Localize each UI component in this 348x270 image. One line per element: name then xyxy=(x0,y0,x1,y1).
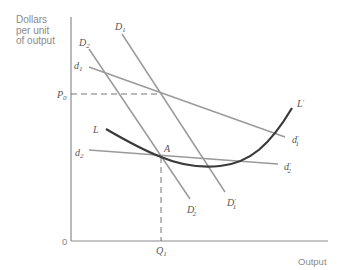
label-D2: D2 xyxy=(78,37,90,50)
label-d2prime: d′2 xyxy=(284,161,292,175)
label-D1: D1 xyxy=(114,21,126,34)
label-Lprime: L′ xyxy=(296,98,305,109)
demand-line-d1 xyxy=(89,67,285,137)
label-origin: 0 xyxy=(62,236,67,247)
label-d2: d2 xyxy=(75,147,84,160)
label-L: L xyxy=(92,124,99,135)
x-axis-label: Output xyxy=(298,256,327,267)
economics-diagram: D1 D2 d1 d2 L L′ d′1 d′2 D′2 D′1 A P0 Q1… xyxy=(0,0,348,270)
label-P0: P0 xyxy=(56,89,67,102)
demand-line-D1 xyxy=(122,34,225,192)
label-D2prime: D′2 xyxy=(186,204,197,218)
label-point-A: A xyxy=(163,143,171,154)
label-d1: d1 xyxy=(74,60,83,73)
demand-line-D2 xyxy=(89,49,190,199)
label-D1prime: D′1 xyxy=(226,197,236,211)
label-d1prime: d′1 xyxy=(292,134,299,148)
label-Q1: Q1 xyxy=(156,245,167,258)
